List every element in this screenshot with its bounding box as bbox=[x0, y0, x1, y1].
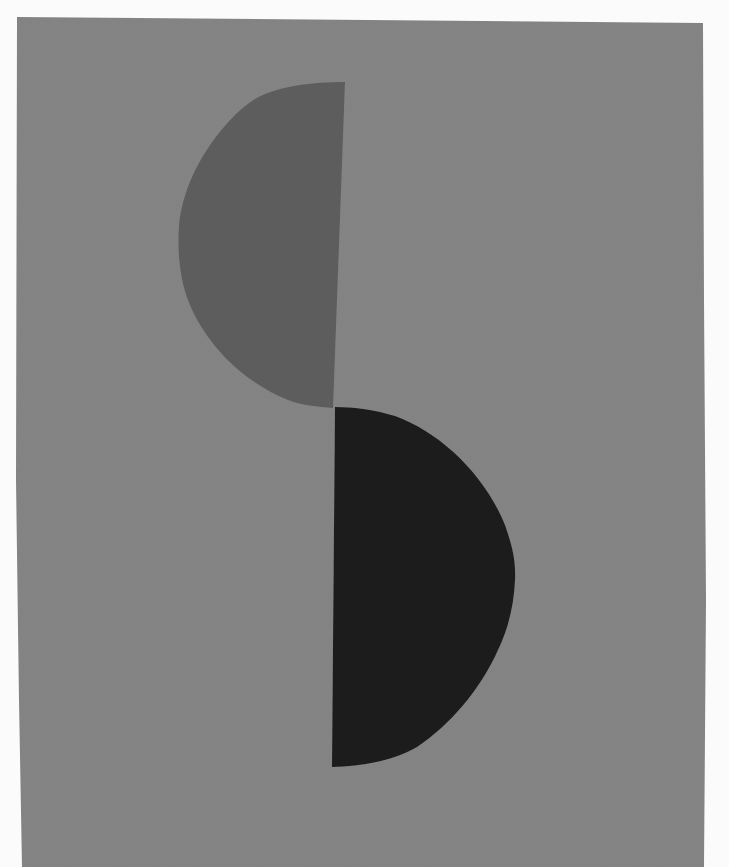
artwork-canvas bbox=[0, 0, 729, 867]
